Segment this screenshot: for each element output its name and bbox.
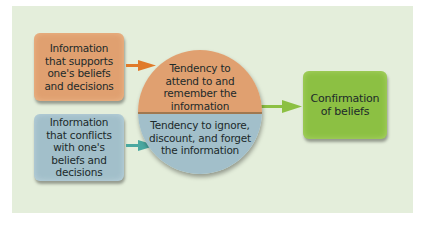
tendency-circle: Tendency to attend to and remember the i… — [138, 50, 262, 174]
green-arrow-icon — [260, 100, 304, 114]
supporting-information-box: Information that supports one's beliefs … — [34, 33, 124, 101]
conflicting-information-label: Information that conflicts with one's be… — [38, 116, 120, 179]
conflicting-information-box: Information that conflicts with one's be… — [34, 114, 124, 181]
ignore-discount-half: Tendency to ignore, discount, and forget… — [138, 112, 262, 174]
confirmation-box: Confirmation of beliefs — [303, 71, 387, 139]
ignore-discount-label: Tendency to ignore, discount, and forget… — [144, 119, 256, 157]
supporting-information-label: Information that supports one's beliefs … — [38, 42, 120, 92]
confirmation-label: Confirmation of beliefs — [310, 92, 380, 118]
attend-remember-half: Tendency to attend to and remember the i… — [138, 50, 262, 112]
attend-remember-label: Tendency to attend to and remember the i… — [157, 62, 243, 112]
